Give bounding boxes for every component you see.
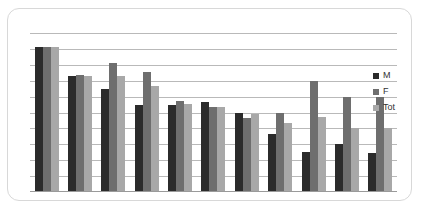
legend-swatch-f-icon [373, 89, 379, 95]
bar-tot [384, 128, 392, 192]
bar-tot [84, 76, 92, 192]
bar-m [235, 113, 243, 193]
bar-tot [151, 86, 159, 192]
bar-tot [217, 107, 225, 192]
bar-group [97, 33, 130, 192]
bar-m [302, 152, 310, 192]
legend-item-f[interactable]: F [373, 87, 395, 96]
bar-tot [351, 128, 359, 192]
bar-m [201, 102, 209, 192]
bar-f [76, 75, 84, 192]
bar-tot [117, 76, 125, 192]
chart-legend: MFTot [373, 71, 395, 112]
chart-frame: MFTot [7, 8, 412, 201]
legend-label: Tot [383, 103, 395, 112]
bar-group [30, 33, 63, 192]
bar-f [143, 72, 151, 192]
bar-m [68, 76, 76, 192]
bar-m [335, 144, 343, 192]
bar-tot [251, 114, 259, 192]
legend-item-m[interactable]: M [373, 71, 395, 80]
legend-swatch-m-icon [373, 73, 379, 79]
bar-m [135, 105, 143, 192]
bar-tot [318, 117, 326, 192]
bar-groups [30, 33, 397, 192]
bar-m [35, 47, 43, 192]
bar-f [109, 63, 117, 192]
bar-f [343, 97, 351, 192]
bar-f [209, 107, 217, 192]
bar-group [63, 33, 96, 192]
bar-f [243, 118, 251, 192]
bar-f [176, 101, 184, 192]
legend-label: M [383, 71, 391, 80]
bar-tot [51, 47, 59, 192]
legend-item-tot[interactable]: Tot [373, 103, 395, 112]
bar-group [130, 33, 163, 192]
bar-group [297, 33, 330, 192]
bar-m [168, 105, 176, 192]
bar-m [368, 153, 376, 192]
bar-group [264, 33, 297, 192]
bar-group [230, 33, 263, 192]
x-axis-line [30, 191, 397, 192]
bar-f [310, 81, 318, 192]
bar-m [101, 89, 109, 192]
legend-swatch-tot-icon [373, 105, 379, 111]
bar-tot [184, 104, 192, 192]
bar-group [330, 33, 363, 192]
legend-label: F [383, 87, 389, 96]
bar-group [163, 33, 196, 192]
bar-f [276, 113, 284, 193]
bar-m [268, 134, 276, 192]
bar-group [197, 33, 230, 192]
bar-f [43, 47, 51, 192]
bar-tot [284, 123, 292, 192]
bar-group [364, 33, 397, 192]
plot-area [30, 33, 397, 192]
